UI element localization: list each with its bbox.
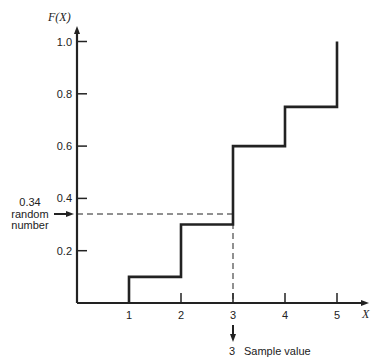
svg-text:number: number bbox=[11, 219, 49, 231]
cdf-step-chart: 0.20.40.60.81.0 12345 F(X) X 0.34 random… bbox=[0, 0, 381, 363]
x-tick-label: 3 bbox=[230, 309, 236, 321]
x-tick-label: 2 bbox=[178, 309, 184, 321]
y-tick-label: 0.2 bbox=[57, 245, 72, 257]
sample-value-annotation: 3 Sample value bbox=[229, 325, 311, 357]
x-axis-title: X bbox=[361, 307, 370, 321]
x-tick-label: 1 bbox=[126, 309, 132, 321]
y-tick-label: 0.8 bbox=[57, 88, 72, 100]
x-tick-label: 5 bbox=[334, 309, 340, 321]
x-tick-label: 4 bbox=[282, 309, 288, 321]
svg-text:Sample value: Sample value bbox=[244, 345, 311, 357]
svg-text:0.34: 0.34 bbox=[19, 196, 40, 208]
y-tick-label: 0.4 bbox=[57, 192, 72, 204]
y-tick-label: 0.6 bbox=[57, 140, 72, 152]
y-tick-label: 1.0 bbox=[57, 36, 72, 48]
y-axis-title: F(X) bbox=[47, 10, 71, 24]
svg-text:3: 3 bbox=[229, 345, 235, 357]
y-ticks: 0.20.40.60.81.0 bbox=[57, 36, 87, 257]
